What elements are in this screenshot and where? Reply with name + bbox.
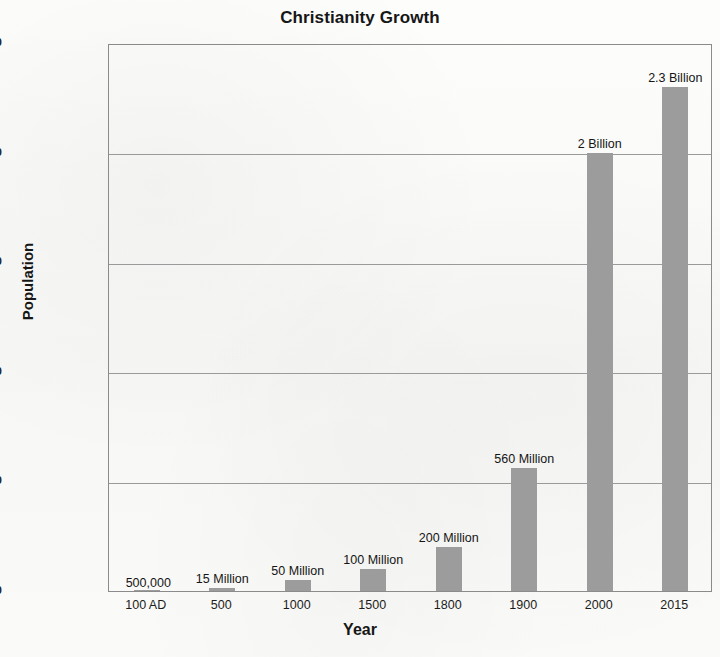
bar[interactable]	[511, 468, 537, 591]
bar-value-label: 500,000	[126, 576, 171, 590]
x-axis-tick-label: 1000	[259, 598, 335, 612]
chart-title: Christianity Growth	[0, 8, 720, 28]
x-axis-tick-label: 1500	[335, 598, 411, 612]
y-axis-tick-label: 500,000	[0, 584, 2, 596]
bar-group[interactable]: 50 Million	[260, 45, 336, 591]
plot-area: 500,00015 Million50 Million100 Million20…	[108, 44, 712, 592]
bar-group[interactable]: 15 Million	[185, 45, 261, 591]
bar-group[interactable]: 200 Million	[411, 45, 487, 591]
bar-value-label: 200 Million	[419, 531, 479, 545]
bar[interactable]	[360, 569, 386, 591]
x-axis-tick-label: 2015	[637, 598, 713, 612]
x-axis-tick-label: 100 AD	[108, 598, 184, 612]
x-axis-title: Year	[0, 621, 720, 639]
bar-group[interactable]: 100 Million	[336, 45, 412, 591]
y-axis-tick-label: 1,500,500,000	[0, 255, 2, 267]
bar-value-label: 15 Million	[196, 572, 249, 586]
bar-value-label: 100 Million	[343, 553, 403, 567]
bar[interactable]	[662, 87, 688, 591]
bar[interactable]	[436, 547, 462, 591]
y-axis-tick-label: 2,000,500,000	[0, 146, 2, 158]
bar-group[interactable]: 500,000	[109, 45, 185, 591]
bar-value-label: 50 Million	[271, 564, 324, 578]
bar-value-label: 2 Billion	[578, 137, 622, 151]
bar[interactable]	[209, 588, 235, 591]
x-axis-tick-label: 500	[184, 598, 260, 612]
x-axis-tick-label: 2000	[561, 598, 637, 612]
x-axis-tick-label: 1900	[486, 598, 562, 612]
bar[interactable]	[285, 580, 311, 591]
y-axis-tick-label: 2,500,500,000	[0, 36, 2, 48]
bar-value-label: 2.3 Billion	[648, 71, 702, 85]
y-axis-tick-label: 500,500,000	[0, 474, 2, 486]
bar-group[interactable]: 2 Billion	[562, 45, 638, 591]
bar-group[interactable]: 560 Million	[487, 45, 563, 591]
x-axis-tick-label: 1800	[410, 598, 486, 612]
bar-value-label: 560 Million	[494, 452, 554, 466]
y-axis-tick-label: 1,000,500,000	[0, 365, 2, 377]
bar-group[interactable]: 2.3 Billion	[638, 45, 714, 591]
bars-layer: 500,00015 Million50 Million100 Million20…	[109, 45, 711, 591]
y-axis-title: Population	[19, 222, 36, 342]
bar[interactable]	[587, 153, 613, 591]
